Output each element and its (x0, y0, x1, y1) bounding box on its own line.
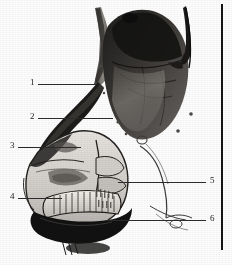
right-frame-rule (221, 4, 223, 250)
figure-root: 1 2 3 4 5 6 (0, 0, 232, 265)
region-torn-edge (168, 6, 191, 69)
callout-6-number: 6 (210, 214, 215, 223)
region-dark-organ-mass (103, 10, 189, 140)
callout-1-number: 1 (30, 78, 35, 87)
region-upper-neck-strip (94, 7, 112, 86)
region-dark-cavity-floor (31, 208, 132, 255)
callout-2-leader-line (38, 118, 113, 119)
callout-6-leader-line (106, 220, 206, 221)
callout-4-number: 4 (10, 192, 15, 201)
callout-3-leader-line (18, 147, 81, 148)
callout-5-leader-line (118, 182, 206, 183)
region-vessel-strands (137, 136, 192, 230)
print-grain-overlay (0, 0, 232, 265)
callout-1-leader-line (38, 84, 96, 85)
callout-5-number: 5 (210, 176, 215, 185)
specimen-artwork (0, 0, 232, 265)
callout-3-number: 3 (10, 141, 15, 150)
region-pale-sectioned-block (23, 131, 127, 229)
region-tooth-row (43, 189, 121, 218)
region-speckles (99, 64, 192, 135)
callout-2-number: 2 (30, 112, 35, 121)
callout-4-leader-line (18, 198, 62, 199)
